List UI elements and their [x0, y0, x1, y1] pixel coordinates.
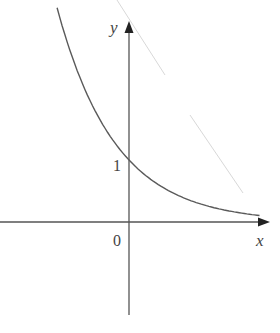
origin-label: 0	[113, 232, 121, 249]
guide-line-segment	[190, 115, 243, 193]
exponential-curve	[57, 8, 259, 216]
x-axis-arrow-icon	[258, 218, 270, 227]
x-axis-label: x	[255, 231, 264, 250]
exponential-decay-plot: y x 0 1	[0, 0, 280, 333]
guide-line	[117, 0, 165, 75]
y-tick-label-1: 1	[113, 157, 121, 174]
y-axis-label: y	[108, 18, 118, 37]
